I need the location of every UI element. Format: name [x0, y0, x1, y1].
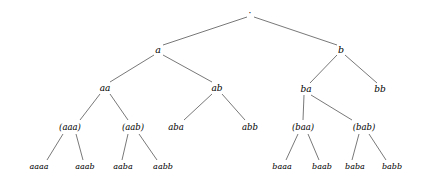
tree-node-baba: baba: [345, 163, 365, 171]
tree-node-aaba: aaba: [113, 163, 132, 171]
tree-node-aa: aa: [100, 84, 111, 93]
tree-node-baa: (baa): [292, 123, 314, 132]
tree-node-ba: ba: [300, 85, 311, 94]
tree-node-root: ·: [249, 9, 252, 18]
tree-node-layer: ·abaaabbabb(aaa)(aab)abaabb(baa)(bab)aaa…: [0, 0, 423, 181]
tree-node-a: a: [155, 45, 161, 55]
tree-node-bb: bb: [374, 85, 386, 94]
tree-node-aaab: aaab: [75, 163, 94, 171]
tree-node-b: b: [338, 45, 344, 55]
tree-node-aab: (aab): [122, 123, 144, 132]
tree-node-babb: babb: [382, 163, 402, 171]
tree-node-bab: (bab): [353, 123, 376, 132]
tree-node-aaa: (aaa): [59, 123, 81, 132]
tree-node-aaaa: aaaa: [29, 163, 48, 171]
tree-node-baab: baab: [312, 163, 332, 171]
tree-node-abb: abb: [242, 123, 258, 132]
tree-node-baaa: baaa: [272, 163, 291, 171]
tree-node-aabb: aabb: [153, 163, 173, 171]
tree-node-ab: ab: [211, 84, 222, 93]
binary-tree-diagram: ·abaaabbabb(aaa)(aab)abaabb(baa)(bab)aaa…: [0, 0, 423, 181]
tree-node-aba: aba: [168, 123, 184, 132]
